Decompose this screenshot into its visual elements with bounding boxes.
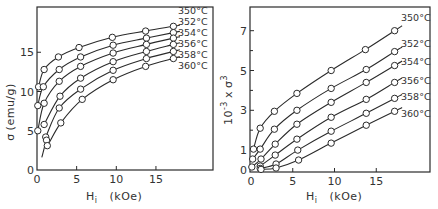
figure: 051015051015350°C352°C354°C356°C358°C360… [0, 0, 438, 209]
x-tick-label: 15 [149, 173, 163, 186]
data-point-marker [41, 66, 47, 72]
data-point-marker [363, 96, 369, 102]
data-point-marker [295, 147, 301, 153]
right-ylabel: 10-3xσ3 [220, 75, 235, 125]
data-point-marker [170, 35, 176, 41]
data-point-marker [362, 46, 368, 52]
data-point-marker [110, 42, 116, 48]
data-point-marker [391, 28, 397, 34]
data-point-marker [143, 35, 149, 41]
y-tick-label: 15 [20, 46, 34, 59]
data-point-marker [273, 165, 279, 171]
data-point-marker [170, 23, 176, 29]
data-point-marker [294, 90, 300, 96]
x-tick-label: 5 [289, 175, 296, 188]
y-tick-label: 1 [240, 144, 247, 157]
data-point-marker [363, 122, 369, 128]
data-point-marker [363, 110, 369, 116]
data-point-marker [41, 100, 47, 106]
data-point-marker [55, 54, 61, 60]
data-point-marker [328, 140, 334, 146]
data-point-marker [271, 126, 277, 132]
data-point-marker [57, 93, 63, 99]
data-point-marker [328, 114, 334, 120]
x-tick-label: 10 [328, 175, 342, 188]
x-tick-label: 5 [73, 173, 80, 186]
x-tick-label: 10 [109, 173, 123, 186]
series-label: 356°C [178, 38, 208, 49]
data-point-marker [110, 77, 116, 83]
data-point-marker [58, 120, 64, 126]
data-point-marker [391, 48, 397, 54]
data-point-marker [44, 142, 50, 148]
y-tick-label: 0 [240, 164, 247, 177]
data-point-marker [142, 28, 148, 34]
x-tick-label: 15 [369, 175, 383, 188]
data-point-marker [328, 85, 334, 91]
data-point-marker [35, 102, 41, 108]
data-point-marker [391, 62, 397, 68]
data-point-marker [249, 156, 255, 162]
series-label: 350°C [401, 12, 431, 23]
data-point-marker [258, 156, 264, 162]
data-point-marker [56, 105, 62, 111]
data-point-marker [110, 50, 116, 56]
data-point-marker [41, 121, 47, 127]
y-tick-label: 10 [20, 86, 34, 99]
data-point-marker [56, 66, 62, 72]
data-point-marker [363, 79, 369, 85]
data-point-marker [272, 141, 278, 147]
data-point-marker [77, 63, 83, 69]
data-point-marker [272, 152, 278, 158]
data-point-marker [77, 86, 83, 92]
data-point-marker [328, 99, 334, 105]
right-plot-sigma-cubed-vs-field: 05101501357350°C352°C354°C356°C358°C360°… [240, 7, 431, 188]
data-point-marker [142, 63, 148, 69]
x-tick-label: 0 [34, 173, 41, 186]
left-plot-sigma-vs-field: 051015051015350°C352°C354°C356°C358°C360… [20, 5, 213, 186]
series-label: 360°C [401, 108, 431, 119]
data-point-marker [249, 164, 255, 170]
data-point-marker [391, 95, 397, 101]
data-point-marker [110, 58, 116, 64]
y-tick-label: 3 [240, 104, 247, 117]
data-point-marker [170, 48, 176, 54]
data-point-marker [257, 125, 263, 131]
left-ylabel: σ(emu/g) [4, 83, 17, 141]
data-point-marker [143, 55, 149, 61]
series-label: 354°C [178, 27, 208, 38]
data-point-marker [257, 146, 263, 152]
series-label: 354°C [401, 56, 431, 67]
right-xlabel: Hi(kOe) [306, 190, 362, 205]
data-point-marker [391, 79, 397, 85]
data-point-marker [328, 67, 334, 73]
series-label: 360°C [178, 60, 208, 71]
series-label: 358°C [401, 91, 431, 102]
data-point-marker [170, 41, 176, 47]
data-point-marker [40, 84, 46, 90]
data-point-marker [77, 75, 83, 81]
data-point-marker [294, 121, 300, 127]
data-point-marker [35, 128, 41, 134]
data-point-marker [110, 67, 116, 73]
data-point-marker [170, 55, 176, 61]
series-label: 352°C [401, 38, 431, 49]
series-label: 356°C [401, 75, 431, 86]
y-tick-label: 5 [27, 125, 34, 138]
data-point-marker [271, 108, 277, 114]
y-tick-label: 0 [27, 164, 34, 177]
data-point-marker [294, 136, 300, 142]
series-label: 350°C [178, 5, 208, 16]
data-point-marker [294, 107, 300, 113]
y-tick-label: 5 [240, 65, 247, 78]
data-point-marker [391, 108, 397, 114]
data-point-marker [250, 146, 256, 152]
data-point-marker [143, 41, 149, 47]
data-point-marker [363, 66, 369, 72]
y-tick-label: 7 [240, 25, 247, 38]
data-point-marker [76, 44, 82, 50]
data-point-marker [77, 54, 83, 60]
series-label: 352°C [178, 16, 208, 27]
x-tick-label: 0 [248, 175, 255, 188]
data-point-marker [79, 96, 85, 102]
